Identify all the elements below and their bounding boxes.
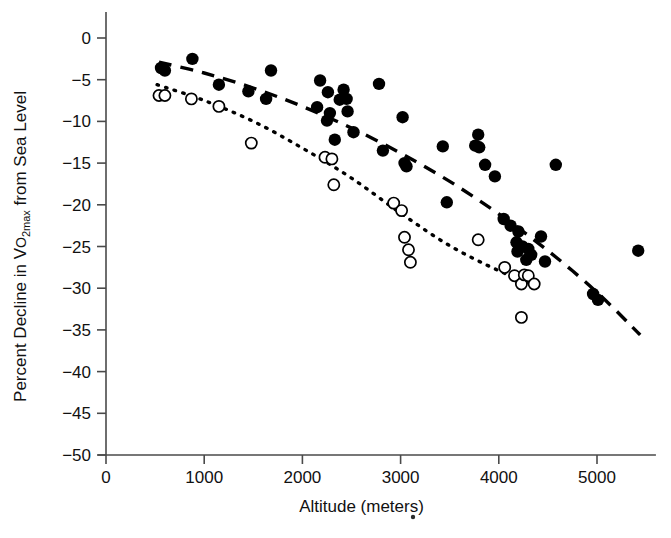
y-tick-label: −40 bbox=[62, 363, 91, 382]
data-point-filled bbox=[242, 85, 254, 97]
data-point-open bbox=[516, 312, 527, 323]
y-tick-label: −45 bbox=[62, 404, 91, 423]
data-point-filled bbox=[260, 93, 272, 105]
data-point-filled bbox=[396, 111, 408, 123]
stray-mark bbox=[411, 515, 415, 519]
x-tick-label: 1000 bbox=[185, 468, 223, 487]
data-point-open bbox=[396, 205, 407, 216]
data-point-filled bbox=[373, 78, 385, 90]
x-tick-label: 0 bbox=[101, 468, 110, 487]
x-tick-label: 3000 bbox=[382, 468, 420, 487]
regression-curves bbox=[157, 62, 640, 335]
y-tick-label: −10 bbox=[62, 112, 91, 131]
data-point-filled bbox=[550, 159, 562, 171]
data-point-filled bbox=[265, 64, 277, 76]
data-point-filled bbox=[512, 225, 524, 237]
data-point-open bbox=[499, 262, 510, 273]
y-tick-label: 0 bbox=[82, 29, 91, 48]
data-point-filled bbox=[377, 144, 389, 156]
data-points bbox=[153, 53, 644, 323]
data-point-filled bbox=[329, 134, 341, 146]
data-point-open bbox=[529, 278, 540, 289]
data-point-open bbox=[405, 257, 416, 268]
figure-container: 0−5−10−15−20−25−30−35−40−45−500100020003… bbox=[0, 0, 671, 538]
x-tick-label: 2000 bbox=[283, 468, 321, 487]
data-point-filled bbox=[400, 160, 412, 172]
data-point-open bbox=[399, 232, 410, 243]
data-point-open bbox=[186, 93, 197, 104]
x-tick-label: 5000 bbox=[578, 468, 616, 487]
data-point-filled bbox=[592, 294, 604, 306]
data-point-filled bbox=[535, 230, 547, 242]
data-point-filled bbox=[324, 107, 336, 119]
data-point-filled bbox=[479, 159, 491, 171]
data-point-filled bbox=[314, 74, 326, 86]
data-point-filled bbox=[311, 101, 323, 113]
data-point-filled bbox=[489, 170, 501, 182]
y-axis-title: Percent Decline in VO2max from Sea Level bbox=[11, 91, 32, 402]
data-point-open bbox=[403, 244, 414, 255]
data-point-filled bbox=[472, 129, 484, 141]
y-tick-label: −25 bbox=[62, 238, 91, 257]
data-point-open bbox=[213, 101, 224, 112]
data-point-filled bbox=[525, 249, 537, 261]
y-tick-label: −30 bbox=[62, 279, 91, 298]
y-tick-label: −50 bbox=[62, 446, 91, 465]
data-point-filled bbox=[322, 86, 334, 98]
data-point-open bbox=[246, 138, 257, 149]
data-point-filled bbox=[159, 64, 171, 76]
filled-fit-curve bbox=[159, 62, 640, 335]
y-tick-label: −15 bbox=[62, 154, 91, 173]
data-point-open bbox=[473, 234, 484, 245]
scatter-plot: 0−5−10−15−20−25−30−35−40−45−500100020003… bbox=[0, 0, 671, 538]
data-point-filled bbox=[341, 105, 353, 117]
y-tick-label: −35 bbox=[62, 321, 91, 340]
y-tick-label: −5 bbox=[72, 71, 91, 90]
data-point-open bbox=[328, 179, 339, 190]
x-tick-label: 4000 bbox=[480, 468, 518, 487]
data-point-filled bbox=[186, 53, 198, 65]
data-point-filled bbox=[437, 140, 449, 152]
data-point-filled bbox=[347, 126, 359, 138]
data-point-filled bbox=[441, 196, 453, 208]
data-point-filled bbox=[539, 255, 551, 267]
data-point-filled bbox=[213, 79, 225, 91]
data-point-open bbox=[159, 90, 170, 101]
data-point-open bbox=[326, 153, 337, 164]
x-axis-title: Altitude (meters) bbox=[299, 497, 424, 516]
y-tick-label: −20 bbox=[62, 196, 91, 215]
data-point-filled bbox=[473, 141, 485, 153]
data-point-filled bbox=[340, 93, 352, 105]
data-point-filled bbox=[632, 245, 644, 257]
